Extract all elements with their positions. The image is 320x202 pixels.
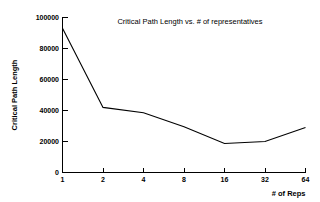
y-tick-label: 20000 [40, 138, 60, 145]
line-chart: 0 20000 40000 60000 80000 100000 1 2 4 8… [0, 0, 320, 202]
chart-container: 0 20000 40000 60000 80000 100000 1 2 4 8… [0, 0, 320, 202]
y-tick-label: 100000 [36, 14, 59, 21]
x-tick-label: 1 [61, 176, 65, 183]
chart-background [0, 0, 320, 202]
y-tick-label: 40000 [40, 107, 60, 114]
x-axis-title: # of Reps [272, 189, 306, 198]
y-tick-label: 60000 [40, 76, 60, 83]
x-tick-label: 2 [101, 176, 105, 183]
x-tick-label: 64 [302, 176, 310, 183]
x-tick-label: 8 [182, 176, 186, 183]
x-tick-label: 4 [142, 176, 146, 183]
chart-title: Critical Path Length vs. # of representa… [117, 17, 262, 26]
x-tick-label: 16 [221, 176, 229, 183]
y-axis-title: Critical Path Length [10, 59, 19, 130]
x-tick-label: 32 [261, 176, 269, 183]
y-tick-label: 80000 [40, 45, 60, 52]
y-tick-label: 0 [55, 169, 59, 176]
